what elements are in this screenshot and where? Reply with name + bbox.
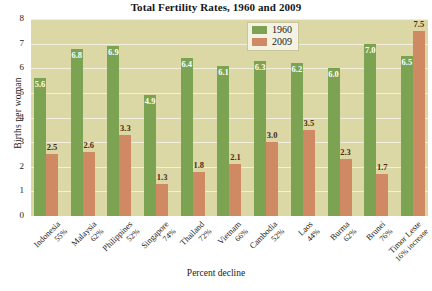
bar-1960-vietnam[interactable]: 6.1 [217, 66, 229, 216]
bar-2009-cambodia[interactable]: 3.0 [266, 142, 278, 216]
bar-1960-malaysia[interactable]: 6.8 [71, 49, 83, 216]
bar-group: 6.12.1 [217, 66, 241, 216]
bar-1960-thailand[interactable]: 6.4 [181, 58, 193, 216]
bar-value-label: 6.2 [292, 65, 303, 74]
y-axis-tick-3: 3 [8, 137, 24, 146]
bar-value-label: 6.0 [328, 70, 339, 79]
bar-2009-brunei[interactable]: 1.7 [376, 174, 388, 216]
bar-value-label: 6.4 [181, 60, 192, 69]
bar-2009-burma[interactable]: 2.3 [340, 159, 352, 216]
bar-group: 7.01.7 [364, 44, 388, 216]
legend-swatch-1960-icon [252, 26, 267, 34]
bar-1960-indonesia[interactable]: 5.6 [34, 78, 46, 216]
bar-value-label: 3.3 [120, 124, 131, 133]
bar-2009-indonesia[interactable]: 2.5 [46, 154, 58, 216]
legend-label-1960: 1960 [272, 25, 292, 35]
bar-value-label: 6.5 [402, 58, 413, 67]
legend-item-1960[interactable]: 1960 [252, 25, 292, 35]
bar-value-label: 4.9 [145, 97, 156, 106]
bar-1960-singapore[interactable]: 4.9 [144, 95, 156, 216]
bar-value-label: 7.0 [365, 46, 376, 55]
bar-group: 6.41.8 [181, 58, 205, 216]
bar-value-label: 1.7 [377, 163, 388, 172]
bar-group: 6.57.5 [401, 31, 425, 216]
bar-value-label: 2.6 [83, 141, 94, 150]
bar-value-label: 6.8 [71, 51, 82, 60]
legend-swatch-2009-icon [252, 38, 267, 46]
y-axis-tick-2: 2 [8, 162, 24, 171]
bar-value-label: 6.9 [108, 48, 119, 57]
x-tick-philippines: Philippines52% [100, 219, 142, 261]
bar-2009-malaysia[interactable]: 2.6 [83, 152, 95, 216]
x-tick-vietnam: Vietnam66% [215, 219, 250, 254]
x-tick-singapore: Singapore74% [139, 219, 178, 258]
legend: 1960 2009 [247, 22, 299, 51]
bar-value-label: 2.3 [340, 148, 351, 157]
chart-title: Total Fertility Rates, 1960 and 2009 [0, 1, 432, 13]
bar-1960-brunei[interactable]: 7.0 [364, 44, 376, 216]
y-axis-tick-8: 8 [8, 14, 24, 23]
bar-2009-philippines[interactable]: 3.3 [119, 135, 131, 216]
x-tick-malaysia: Malaysia62% [69, 219, 106, 256]
x-axis-tick-labels: Indonesia55%Malaysia62%Philippines52%Sin… [31, 216, 428, 274]
bar-value-label: 3.5 [304, 119, 315, 128]
bar-groups: 5.62.56.82.66.93.34.91.36.41.86.12.16.33… [31, 19, 428, 216]
bar-value-label: 7.5 [414, 20, 425, 29]
bar-value-label: 1.3 [157, 173, 168, 182]
x-tick-cambodia: Cambodia52% [247, 219, 287, 259]
y-axis-tick-1: 1 [8, 186, 24, 195]
bar-value-label: 6.3 [255, 63, 266, 72]
legend-item-2009[interactable]: 2009 [252, 37, 292, 47]
bar-1960-philippines[interactable]: 6.9 [107, 46, 119, 216]
bar-1960-cambodia[interactable]: 6.3 [254, 61, 266, 216]
bar-group: 5.62.5 [34, 78, 58, 216]
bar-group: 6.82.6 [71, 49, 95, 216]
bar-2009-laos[interactable]: 3.5 [303, 130, 315, 216]
y-axis-tick-7: 7 [8, 39, 24, 48]
bar-value-label: 5.6 [35, 80, 46, 89]
bar-group: 6.02.3 [328, 68, 352, 216]
bar-2009-singapore[interactable]: 1.3 [156, 184, 168, 216]
bar-value-label: 2.1 [230, 153, 241, 162]
x-axis-title: Percent decline [0, 268, 432, 278]
bar-2009-vietnam[interactable]: 2.1 [229, 164, 241, 216]
y-axis-tick-6: 6 [8, 63, 24, 72]
bar-2009-thailand[interactable]: 1.8 [193, 172, 205, 216]
x-tick-timor-leste: Timor Leste16% increase [386, 219, 431, 264]
bar-1960-timor-leste[interactable]: 6.5 [401, 56, 413, 216]
bar-group: 6.23.5 [291, 63, 315, 216]
fertility-rates-chart: Total Fertility Rates, 1960 and 2009 Bir… [0, 0, 432, 291]
bar-value-label: 6.1 [218, 68, 229, 77]
bar-value-label: 3.0 [267, 131, 278, 140]
bar-group: 6.93.3 [107, 46, 131, 216]
plot-area: 5.62.56.82.66.93.34.91.36.41.86.12.16.33… [31, 19, 428, 216]
x-tick-burma: Burma62% [327, 219, 358, 250]
x-tick-laos: Laos44% [296, 219, 323, 246]
bar-value-label: 2.5 [47, 143, 58, 152]
x-tick-thailand: Thailand72% [178, 219, 214, 255]
x-tick-indonesia: Indonesia55% [32, 219, 70, 257]
bar-1960-burma[interactable]: 6.0 [328, 68, 340, 216]
bar-group: 4.91.3 [144, 95, 168, 216]
legend-label-2009: 2009 [272, 37, 292, 47]
bar-value-label: 1.8 [193, 161, 204, 170]
bar-1960-laos[interactable]: 6.2 [291, 63, 303, 216]
y-axis-tick-4: 4 [8, 113, 24, 122]
bar-group: 6.33.0 [254, 61, 278, 216]
bar-2009-timor-leste[interactable]: 7.5 [413, 31, 425, 216]
y-axis-tick-5: 5 [8, 88, 24, 97]
y-axis-tick-0: 0 [8, 211, 24, 220]
